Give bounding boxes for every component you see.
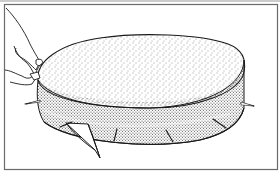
illustration: [0, 0, 280, 177]
cake-illustration-svg: [0, 0, 280, 177]
